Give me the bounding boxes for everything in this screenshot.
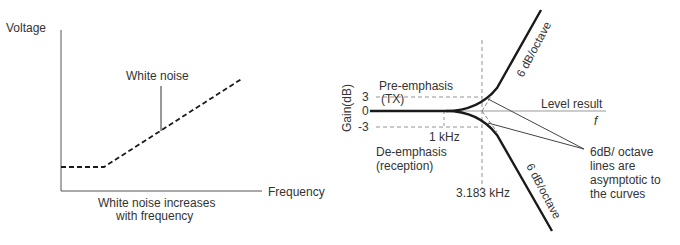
pre-emphasis-tx: (TX) <box>381 92 404 106</box>
pre-emphasis-label: Pre-emphasis <box>379 79 453 93</box>
caption-line2: with frequency <box>115 209 193 223</box>
note-line4: the curves <box>590 187 645 201</box>
white-noise-label: White noise <box>126 69 189 83</box>
diagram-canvas: Voltage Frequency White noise White nois… <box>0 0 680 245</box>
note-line1: 6dB/ octave <box>590 145 654 159</box>
note-line2: lines are <box>590 159 636 173</box>
tick-0: 0 <box>362 104 369 118</box>
frequency-symbol: f <box>594 114 599 128</box>
y-axis-label: Voltage <box>6 21 46 35</box>
tick-3: 3 <box>362 90 369 104</box>
marker-3183khz: 3.183 kHz <box>456 186 510 200</box>
tick-minus3: -3 <box>358 120 369 134</box>
de-emphasis-label: De-emphasis <box>376 145 447 159</box>
de-emphasis-reception: (reception) <box>376 159 433 173</box>
marker-1khz: 1 kHz <box>429 130 460 144</box>
white-noise-diagram: Voltage Frequency White noise White nois… <box>6 21 325 223</box>
note-line3: asymptotic to <box>590 173 661 187</box>
x-axis-label: Frequency <box>268 185 325 199</box>
gain-axis-label: Gain(dB) <box>340 84 354 132</box>
caption-line1: White noise increases <box>98 196 215 210</box>
white-noise-curve <box>61 78 243 167</box>
emphasis-diagram: Gain(dB) 3 0 -3 Pre-emphasis (TX) 1 kHz … <box>340 10 661 231</box>
level-result-label: Level result <box>541 97 603 111</box>
